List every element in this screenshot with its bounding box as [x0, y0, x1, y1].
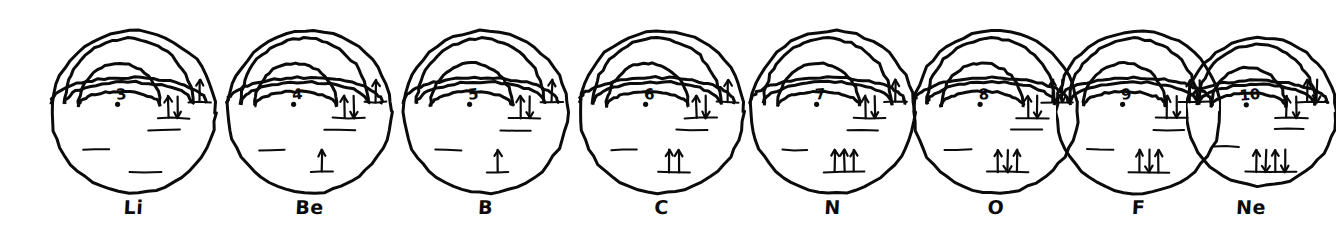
orbital-dash: [487, 172, 509, 173]
spin-arrow-up: [840, 150, 847, 172]
atom-diagram-li: 3: [36, 0, 231, 196]
outer-shell-outline: [403, 30, 569, 194]
orbital-dash: [676, 130, 707, 131]
spin-arrow-up: [1155, 150, 1162, 173]
element-label-row: LiBeBCNOFNe: [0, 196, 1330, 238]
spin-arrow-down: [174, 97, 181, 119]
orbital-dash: [884, 102, 907, 103]
spin-arrow-up: [1024, 96, 1032, 118]
orbital-dash: [1275, 129, 1304, 130]
atom-sketch: 3: [36, 0, 231, 196]
orbital-dash: [945, 149, 972, 150]
element-symbol-ne: Ne: [1175, 196, 1326, 218]
orbital-2p: [987, 150, 1029, 173]
orbital-dash: [1087, 149, 1113, 150]
spin-arrow-up: [340, 96, 347, 118]
spin-arrow-down: [1262, 150, 1270, 172]
orbital-2p: [1245, 150, 1296, 173]
orbital-dash: [311, 171, 333, 172]
orbital-dash: [1129, 172, 1170, 173]
orbital-2p: [824, 150, 865, 173]
atom-diagram-n: 7: [740, 0, 925, 196]
orbital-dash: [189, 102, 211, 103]
outer-shell-outline: [750, 30, 915, 193]
orbital-2p: [658, 150, 690, 173]
atom-diagram-b: 5: [388, 0, 583, 196]
spin-arrow-down: [350, 96, 357, 119]
spin-arrow-up: [494, 150, 502, 172]
orbital-1s: [685, 96, 717, 119]
element-symbol-li: Li: [35, 196, 231, 218]
orbital-dash: [611, 149, 637, 150]
atomic-number-text: 5: [467, 85, 479, 104]
spin-arrow-up: [692, 96, 699, 118]
atom-sketch: 10: [1186, 0, 1336, 196]
orbital-dash: [1154, 130, 1185, 131]
orbital-dash: [685, 118, 717, 119]
orbital-dash: [333, 117, 365, 118]
spin-arrow-down: [1281, 150, 1289, 173]
element-symbol-c: C: [563, 196, 759, 218]
atomic-number-text: 4: [291, 85, 303, 104]
atomic-number-text: 9: [1120, 85, 1132, 104]
orbital-dash: [509, 118, 541, 119]
spin-arrow-up: [831, 150, 839, 172]
orbital-2p: [487, 150, 509, 173]
spin-arrow-down: [871, 96, 878, 118]
atomic-number-text: 7: [814, 85, 826, 104]
spin-arrow-down: [526, 96, 533, 118]
orbital-2p: [130, 172, 162, 173]
atomic-number-text: 3: [115, 85, 127, 104]
spin-arrow-down: [702, 96, 709, 119]
orbital-2p: [311, 150, 333, 172]
orbital-1s: [158, 96, 190, 119]
orbital-dash: [1245, 171, 1296, 172]
spin-arrow-up: [1283, 96, 1291, 118]
orbital-dash: [158, 117, 190, 118]
spin-arrow-up: [1136, 150, 1143, 172]
spin-arrow-up: [516, 96, 524, 119]
orbital-dash: [130, 172, 162, 173]
outer-shell-outline: [581, 31, 745, 194]
spin-arrow-down: [1293, 97, 1299, 119]
outer-shell-outline: [227, 31, 392, 194]
spin-arrow-up: [318, 150, 325, 172]
orbital-dash: [148, 130, 180, 131]
spin-arrow-up: [995, 150, 1002, 172]
spin-arrow-up: [1253, 150, 1260, 172]
element-symbol-b: B: [387, 196, 583, 218]
spin-arrow-up: [861, 96, 868, 119]
orbital-dash: [259, 150, 284, 151]
orbital-dash: [848, 130, 878, 131]
orbital-1s: [1016, 96, 1048, 119]
atom-diagram-be: 4: [212, 0, 407, 196]
atomic-number-text: 10: [1239, 85, 1261, 105]
atom-diagram-c: 6: [564, 0, 759, 196]
orbital-dash: [365, 102, 387, 103]
orbital-dash: [83, 149, 109, 150]
spin-arrow-up: [666, 150, 673, 173]
orbital-dash: [854, 118, 886, 119]
atom-sketch: 7: [740, 0, 925, 196]
orbital-dash: [1296, 102, 1328, 103]
orbital-2p: [1129, 150, 1170, 173]
orbital-dash: [717, 102, 739, 103]
element-symbol-n: N: [739, 196, 925, 218]
outer-shell-outline: [1186, 37, 1336, 186]
spin-arrow-up: [164, 96, 172, 118]
atomic-number-text: 8: [978, 85, 990, 104]
orbital-dash: [987, 171, 1029, 172]
orbital-dash: [324, 130, 355, 131]
orbital-dash: [1214, 146, 1239, 147]
spin-arrow-down: [1004, 150, 1012, 172]
spin-arrow-down: [1034, 96, 1041, 119]
orbital-dash: [658, 172, 690, 173]
orbital-dash: [824, 172, 865, 173]
atom-sketch: 4: [212, 0, 407, 196]
outer-shell-outline: [914, 31, 1078, 194]
orbital-dash: [435, 150, 461, 151]
spin-arrow-down: [1145, 150, 1153, 173]
outer-shell-outline: [52, 30, 216, 193]
element-symbol-be: Be: [211, 196, 407, 218]
